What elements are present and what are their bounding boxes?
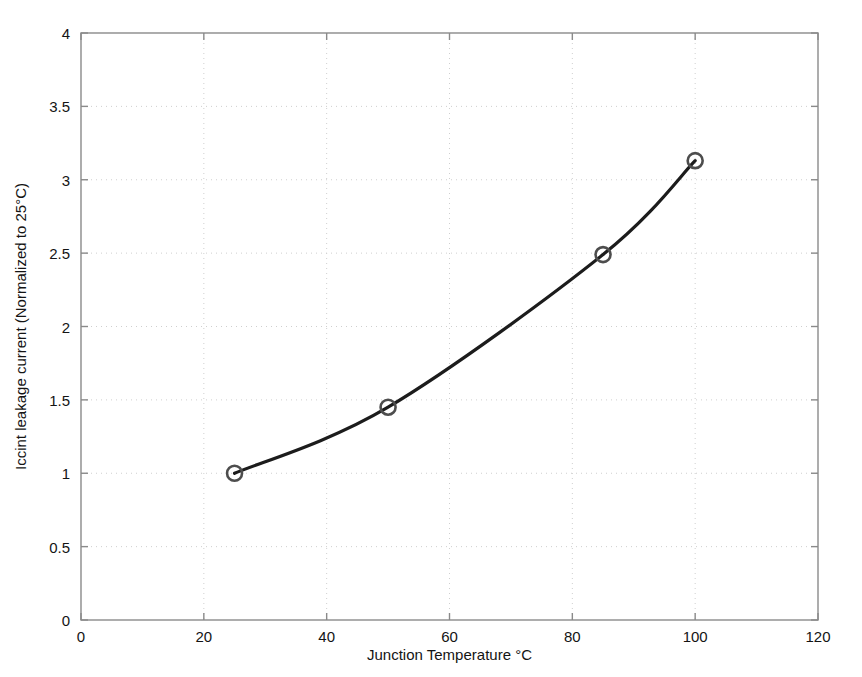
y-tick-label: 1 [0, 465, 70, 482]
x-tick-label: 20 [195, 628, 212, 645]
data-point-markers [227, 153, 703, 481]
y-tick-label: 1.5 [0, 391, 70, 408]
data-series-line [235, 161, 696, 474]
x-tick-label: 40 [318, 628, 335, 645]
y-tick-label: 3.5 [0, 98, 70, 115]
y-tick-label: 0.5 [0, 538, 70, 555]
y-tick-label: 3 [0, 171, 70, 188]
plot-canvas [0, 0, 862, 677]
y-tick-label: 2 [0, 318, 70, 335]
x-tick-label: 100 [683, 628, 708, 645]
gridlines [81, 33, 818, 620]
x-tick-label: 0 [77, 628, 85, 645]
y-tick-label: 4 [0, 25, 70, 42]
x-axis-label: Junction Temperature °C [81, 646, 818, 663]
chart-figure: Iccint leakage current (Normalized to 25… [0, 0, 862, 677]
x-tick-label: 120 [805, 628, 830, 645]
x-tick-label: 60 [441, 628, 458, 645]
y-tick-label: 0 [0, 612, 70, 629]
x-tick-label: 80 [564, 628, 581, 645]
y-tick-label: 2.5 [0, 245, 70, 262]
